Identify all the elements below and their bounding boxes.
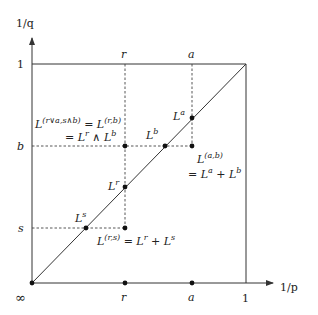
Ls-label: Ls bbox=[74, 210, 86, 225]
x-axis-label: 1/p bbox=[280, 281, 298, 294]
La-dot bbox=[190, 116, 195, 121]
lp-space-diagram: 1/q 1/p ∞ 1 b s r a 1 r a La Lb Lr Ls L(… bbox=[0, 0, 318, 315]
Lrb-dot bbox=[123, 144, 128, 149]
x-tick-r: r bbox=[121, 291, 127, 304]
x-tick-a: a bbox=[188, 291, 195, 304]
Lrs-dot bbox=[123, 226, 128, 231]
origin-dot bbox=[30, 281, 35, 286]
y-tick-b: b bbox=[17, 140, 24, 153]
top-label-a: a bbox=[188, 48, 195, 61]
Lrs-annotation: L(r,s) = Lr + Ls bbox=[96, 233, 175, 248]
origin-label: ∞ bbox=[15, 290, 26, 305]
y-tick-1: 1 bbox=[17, 58, 24, 71]
Lab-annotation-line1: L(a,b) bbox=[196, 151, 223, 166]
Lb-dot bbox=[163, 144, 168, 149]
top-label-r: r bbox=[121, 48, 127, 61]
Lrb-annotation-line2: = Lr ∧ Lb bbox=[65, 129, 116, 144]
r-axis-dot bbox=[123, 281, 128, 286]
y-tick-s: s bbox=[18, 222, 24, 235]
Lr-dot bbox=[123, 185, 128, 190]
y-axis-label: 1/q bbox=[16, 17, 34, 30]
Lab-dot bbox=[190, 144, 195, 149]
a-axis-dot bbox=[190, 281, 195, 286]
Ls-dot bbox=[84, 226, 89, 231]
Lab-annotation-line2: = La + Lb bbox=[188, 166, 241, 181]
Lb-label: Lb bbox=[145, 127, 158, 142]
x-tick-1: 1 bbox=[242, 292, 249, 305]
Lr-label: Lr bbox=[107, 178, 120, 193]
La-label: La bbox=[172, 108, 185, 123]
Lrb-annotation-line1: L(r∨a,s∧b) = L(r,b) bbox=[34, 116, 121, 131]
